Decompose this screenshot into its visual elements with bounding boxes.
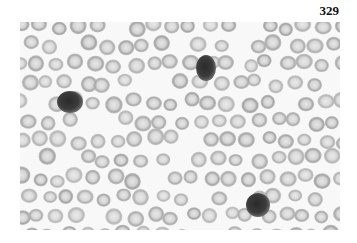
red-blood-cell [242,98,259,114]
red-blood-cell [304,229,319,231]
red-blood-cell [199,96,216,111]
red-blood-cell [156,153,170,165]
red-blood-cell [49,130,66,147]
red-blood-cell [93,78,110,93]
red-blood-cell [268,228,285,230]
red-blood-cell [38,75,52,88]
red-blood-cell [146,96,162,110]
red-blood-cell [314,59,329,72]
red-blood-cell [50,175,65,188]
red-blood-cell [20,57,27,70]
red-blood-cell [212,114,227,127]
red-blood-cell [111,135,126,148]
red-blood-cell [105,60,121,74]
red-blood-cell [320,135,336,149]
red-blood-cell [257,54,272,67]
red-blood-cell [157,190,171,202]
red-blood-cell [288,148,305,165]
red-blood-cell [20,166,30,183]
red-blood-cell [272,151,287,164]
red-blood-cell [116,188,131,201]
red-blood-cell [24,35,39,49]
red-blood-cell [314,173,331,189]
red-blood-cell [42,39,58,54]
red-blood-cell [90,134,105,149]
red-blood-cell [97,228,112,230]
red-blood-cell [105,96,123,113]
red-blood-cell [20,133,31,148]
red-blood-cell [134,116,151,132]
red-blood-cell [20,114,37,129]
red-blood-cell [172,73,189,89]
red-blood-cell [279,207,295,221]
red-blood-cell [297,134,311,146]
red-blood-cell [118,110,133,125]
red-blood-cell [264,34,281,51]
red-blood-cell [251,153,268,169]
red-blood-cell [294,209,309,222]
red-blood-cell [65,167,82,183]
red-blood-cell [187,207,201,220]
red-blood-cell [29,209,44,222]
red-blood-cell [163,99,177,112]
red-blood-cell [244,59,258,73]
red-blood-cell [20,93,27,108]
red-blood-cell [335,55,340,71]
red-blood-cell [52,22,67,35]
micrograph-image [20,22,340,230]
red-blood-cell [117,74,132,87]
red-blood-cell [220,171,237,187]
red-blood-cell [322,225,339,230]
red-blood-cell [306,38,324,53]
red-blood-cell [115,225,131,230]
red-blood-cell [324,148,340,164]
red-blood-cell [247,74,261,87]
red-blood-cell [174,229,190,230]
leukocyte [57,91,83,113]
red-blood-cell [162,212,178,226]
red-blood-cell [286,112,301,126]
red-blood-cell [147,128,164,145]
red-blood-cell [203,22,218,32]
red-blood-cell [148,56,162,70]
red-blood-cell [287,75,303,89]
leukocyte [196,55,216,81]
red-blood-cell [308,192,323,207]
red-blood-cell [68,207,85,223]
red-blood-cell [318,94,335,109]
red-blood-cell [218,96,235,112]
red-blood-cell [280,56,297,70]
red-blood-cell [190,37,207,53]
red-blood-cell [154,227,171,230]
red-blood-cell [145,22,162,31]
red-blood-cell [325,116,339,129]
red-blood-cell [230,114,246,129]
red-blood-cell [211,191,227,205]
red-blood-cell [191,152,207,168]
red-blood-cell [153,35,170,51]
red-blood-cell [333,206,340,222]
red-blood-cell [31,130,48,146]
red-blood-cell [194,115,209,129]
red-blood-cell [164,22,179,34]
red-blood-cell [94,155,109,168]
red-blood-cell [219,131,236,146]
red-blood-cell [290,38,306,53]
red-blood-cell [151,115,166,130]
red-blood-cell [39,148,56,165]
red-blood-cell [85,170,100,185]
red-blood-cell [105,208,122,225]
red-blood-cell [205,171,220,186]
red-blood-cell [314,211,328,224]
red-blood-cell [241,172,256,187]
red-blood-cell [298,97,314,111]
red-blood-cell [125,92,141,106]
red-blood-cell [279,171,296,187]
red-blood-cell [304,148,321,164]
red-blood-cell [288,227,304,230]
red-blood-cell [128,58,145,74]
red-blood-cell [217,55,234,70]
red-blood-cell [85,97,100,110]
red-blood-cell [70,22,87,34]
red-blood-cell [297,168,313,182]
